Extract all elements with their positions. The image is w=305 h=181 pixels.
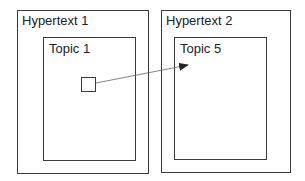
link-arrow	[0, 0, 305, 181]
